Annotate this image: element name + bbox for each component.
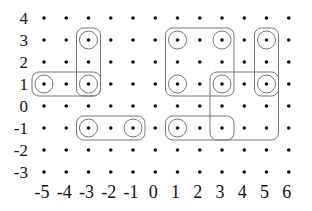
grid-dot (176, 148, 180, 152)
grid-dot (198, 82, 202, 86)
x-tick-label: 2 (193, 182, 202, 202)
x-tick-label: 5 (260, 182, 269, 202)
grid-dot (153, 126, 157, 130)
x-tick-label: -3 (79, 182, 94, 202)
grid-dot (109, 38, 113, 42)
y-tick-label: 0 (20, 97, 29, 116)
grid-dot (109, 82, 113, 86)
grid-dot (42, 82, 46, 86)
grid-dot (153, 104, 157, 108)
grid-dot (153, 60, 157, 64)
grid-dot (265, 104, 269, 108)
grid-dot (176, 38, 180, 42)
grid-dot (64, 16, 68, 20)
grid-dot (287, 170, 291, 174)
grid-dot (198, 126, 202, 130)
grid-dot (64, 126, 68, 130)
grid-dot (131, 60, 135, 64)
grid-dot (64, 148, 68, 152)
grid-dot (87, 38, 91, 42)
y-tick-label: 4 (20, 9, 29, 28)
grid-dot (153, 170, 157, 174)
grid-dot (265, 170, 269, 174)
grid-dot (153, 148, 157, 152)
grid-dot (242, 38, 246, 42)
grid-dot (176, 82, 180, 86)
grid-dot (198, 60, 202, 64)
grid-dot (109, 16, 113, 20)
grid-dot (131, 38, 135, 42)
grid-dot (287, 60, 291, 64)
grid-dot (42, 60, 46, 64)
x-tick-label: 6 (282, 182, 291, 202)
y-tick-label: -3 (14, 163, 28, 182)
grid-dot (42, 38, 46, 42)
x-axis-labels: -5-4-3-2-10123456 (35, 182, 292, 202)
grid-dot (87, 16, 91, 20)
grid-dot (287, 16, 291, 20)
grid-dot (220, 148, 224, 152)
lattice-diagram: 43210-1-2-3 -5-4-3-2-10123456 (0, 0, 312, 211)
x-tick-label: -1 (124, 182, 139, 202)
grid-dot (220, 104, 224, 108)
grid-dot (42, 104, 46, 108)
grid-dot (220, 126, 224, 130)
grid-dot (87, 82, 91, 86)
grid-dot (287, 126, 291, 130)
grid-dot (176, 60, 180, 64)
grid-dot (242, 148, 246, 152)
x-tick-label: -2 (101, 182, 116, 202)
grid-dot (64, 170, 68, 174)
grid-dot (287, 38, 291, 42)
grid-dot (287, 104, 291, 108)
x-tick-label: 4 (238, 182, 247, 202)
x-tick-label: -4 (57, 182, 72, 202)
grid-dot (42, 170, 46, 174)
x-tick-label: 1 (171, 182, 180, 202)
grid-dot (109, 60, 113, 64)
grid-dot (220, 38, 224, 42)
grid-dot (153, 38, 157, 42)
y-tick-label: -1 (14, 119, 28, 138)
grid-dot (42, 16, 46, 20)
grid-dot (131, 148, 135, 152)
grid-dot (265, 148, 269, 152)
grid-dot (198, 170, 202, 174)
grid-dot (131, 104, 135, 108)
y-tick-label: 1 (20, 75, 29, 94)
x-tick-label: 0 (149, 182, 158, 202)
grid-dot (242, 16, 246, 20)
grid-dot (109, 126, 113, 130)
grid-dot (287, 82, 291, 86)
grid-dot (242, 126, 246, 130)
grid-dot (153, 16, 157, 20)
grid-dot (220, 82, 224, 86)
grid-dot (87, 126, 91, 130)
x-tick-label: -5 (35, 182, 50, 202)
grid-dot (131, 82, 135, 86)
grid-dot (265, 126, 269, 130)
grid-dot (198, 104, 202, 108)
grid-dot (42, 126, 46, 130)
grid-dot (242, 82, 246, 86)
grid-dot (64, 38, 68, 42)
grid-dot (242, 104, 246, 108)
grid-dot (131, 170, 135, 174)
grid-dot (265, 38, 269, 42)
grid-dot (64, 82, 68, 86)
grid-dot (198, 16, 202, 20)
grid-dot (242, 60, 246, 64)
grid-dot (131, 126, 135, 130)
x-tick-label: 3 (216, 182, 225, 202)
grid-dot (87, 104, 91, 108)
grid-dot (242, 170, 246, 174)
grid-dot (87, 148, 91, 152)
grid-dot (109, 170, 113, 174)
y-tick-label: -2 (14, 141, 28, 160)
grid-dot (176, 104, 180, 108)
grid-dot (287, 148, 291, 152)
grid-dot (176, 170, 180, 174)
grid-dot (198, 148, 202, 152)
grid-dot (109, 148, 113, 152)
grid-dot (153, 82, 157, 86)
